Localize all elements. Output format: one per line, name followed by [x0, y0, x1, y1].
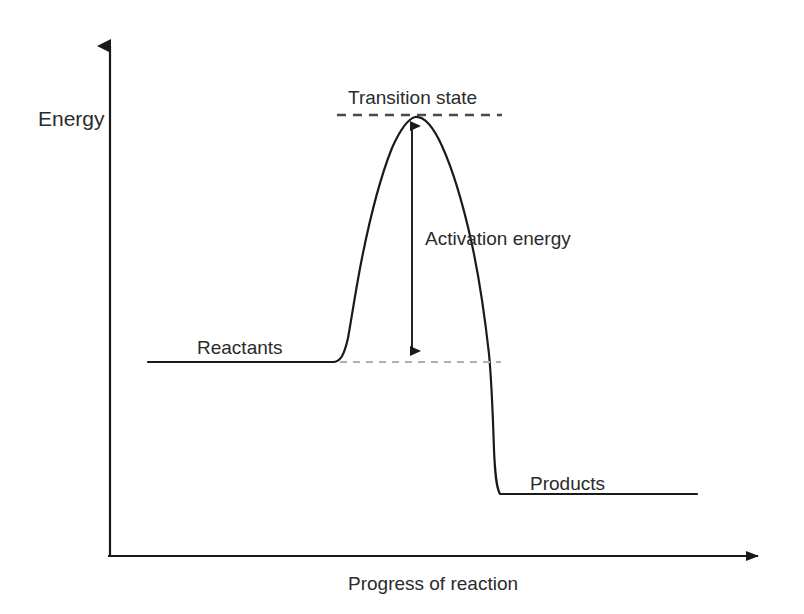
reaction-coordinate-diagram: Energy Transition state Activation energ… [0, 0, 804, 614]
chart-canvas: Energy Transition state Activation energ… [0, 0, 804, 614]
y-axis-label: Energy [38, 107, 105, 130]
reactants-label: Reactants [197, 337, 283, 358]
energy-profile-curve-group [148, 117, 697, 494]
reaction-energy-curve [148, 117, 697, 494]
activation-energy-label: Activation energy [425, 228, 571, 249]
axes-group [108, 46, 758, 556]
x-axis-label: Progress of reaction [348, 573, 518, 594]
products-label: Products [530, 473, 605, 494]
transition-state-label: Transition state [348, 87, 477, 108]
